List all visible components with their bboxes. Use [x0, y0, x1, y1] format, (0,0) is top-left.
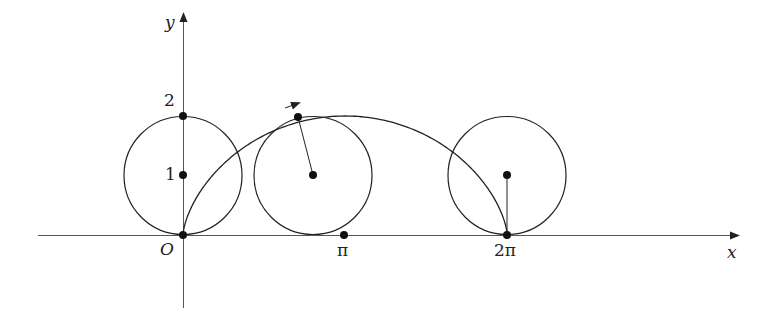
point-origin [179, 231, 187, 239]
point-2pi [503, 231, 511, 239]
cycloid-curve [183, 116, 507, 235]
x-tick-2pi: 2π [494, 242, 516, 259]
y-axis-label: y [165, 14, 175, 31]
point-middle-center [309, 171, 317, 179]
point-pi [340, 231, 348, 239]
x-axis-label: x [727, 244, 737, 261]
point-end-center [503, 171, 511, 179]
point-y2 [179, 112, 187, 120]
point-tracer [294, 113, 302, 121]
point-y1 [179, 171, 187, 179]
x-tick-pi: π [337, 242, 348, 259]
direction-arrow [285, 103, 299, 108]
y-tick-1: 1 [165, 166, 176, 183]
radius-middle [298, 117, 313, 175]
cycloid-diagram [0, 0, 770, 317]
y-tick-2: 2 [164, 92, 175, 109]
origin-label: O [160, 241, 174, 258]
